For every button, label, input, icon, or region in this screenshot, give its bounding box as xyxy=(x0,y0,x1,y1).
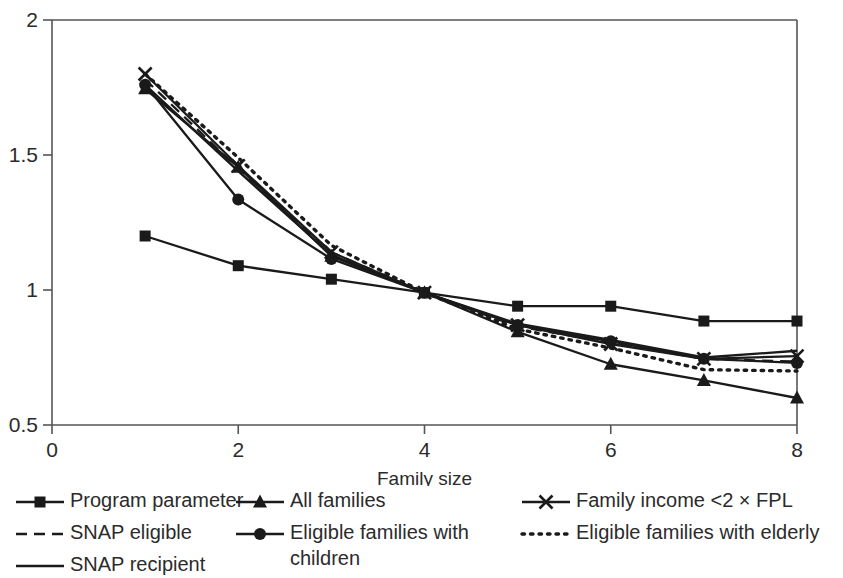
legend-item-label: Eligible families with children xyxy=(290,519,480,571)
legend-item[interactable]: SNAP recipient xyxy=(14,551,243,578)
chart-figure: 0.511.5202468Family size Program paramet… xyxy=(0,0,843,578)
legend-key xyxy=(520,522,576,546)
x-tick-label: 6 xyxy=(605,438,617,461)
legend-key xyxy=(14,554,70,578)
legend-key-line-cross-marker xyxy=(520,490,576,514)
legend-item-label: SNAP eligible xyxy=(70,519,192,545)
legend-item-label: Program parameter xyxy=(70,487,243,513)
legend-key-circle xyxy=(254,528,266,540)
data-point-square xyxy=(698,316,709,327)
legend-key xyxy=(14,522,70,546)
data-point-square xyxy=(512,301,523,312)
legend-column: All familiesEligible families with child… xyxy=(234,487,480,577)
legend-key xyxy=(520,490,576,514)
data-point-square xyxy=(140,231,151,242)
y-tick-label: 1 xyxy=(26,278,38,301)
legend-key-square xyxy=(35,497,46,508)
legend-item[interactable]: All families xyxy=(234,487,480,517)
legend-item[interactable]: Program parameter xyxy=(14,487,243,517)
line-chart-plot: 0.511.5202468Family size xyxy=(0,0,843,486)
legend-key-line-dotted xyxy=(520,522,576,546)
legend-key-line-square-marker xyxy=(14,490,70,514)
legend-item[interactable]: Eligible families with elderly xyxy=(520,519,819,549)
data-point-square xyxy=(792,316,803,327)
legend-key xyxy=(234,522,290,546)
data-point-square xyxy=(326,274,337,285)
x-tick-label: 2 xyxy=(232,438,244,461)
data-point-square xyxy=(233,260,244,271)
legend-item[interactable]: Family income <2 × FPL xyxy=(520,487,819,517)
series-line xyxy=(145,89,797,398)
legend-item-label: Family income <2 × FPL xyxy=(576,487,793,513)
legend-column: Program parameterSNAP eligibleSNAP recip… xyxy=(14,487,243,578)
legend-item-label: All families xyxy=(290,487,386,513)
legend-column: Family income <2 × FPLEligible families … xyxy=(520,487,819,551)
x-axis-title: Family size xyxy=(377,468,472,486)
data-point-square xyxy=(605,301,616,312)
legend-item-label: Eligible families with elderly xyxy=(576,519,819,545)
x-tick-label: 8 xyxy=(791,438,803,461)
chart-legend: Program parameterSNAP eligibleSNAP recip… xyxy=(0,487,843,578)
legend-key-line-solid xyxy=(14,554,70,578)
legend-key-line-triangle-marker xyxy=(234,490,290,514)
legend-item-label: SNAP recipient xyxy=(70,551,205,577)
legend-key-line-circle-marker xyxy=(234,522,290,546)
data-point-circle xyxy=(139,79,151,91)
legend-key xyxy=(14,490,70,514)
y-tick-label: 0.5 xyxy=(9,413,38,436)
legend-item[interactable]: SNAP eligible xyxy=(14,519,243,549)
y-tick-label: 1.5 xyxy=(9,143,38,166)
data-point-circle xyxy=(232,194,244,206)
data-point-cross xyxy=(139,68,152,81)
legend-key xyxy=(234,490,290,514)
x-tick-label: 4 xyxy=(419,438,431,461)
legend-key-line-dashed xyxy=(14,522,70,546)
x-tick-label: 0 xyxy=(46,438,58,461)
y-tick-label: 2 xyxy=(26,8,38,31)
legend-item[interactable]: Eligible families with children xyxy=(234,519,480,575)
